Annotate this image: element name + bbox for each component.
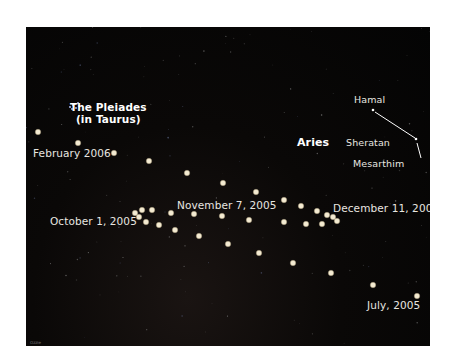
mars-position-core	[315, 209, 319, 213]
background-star	[333, 93, 334, 94]
label-november-2005: November 7, 2005	[177, 200, 277, 211]
background-star	[146, 329, 147, 330]
background-star	[76, 279, 78, 281]
background-star	[239, 161, 240, 162]
mars-position-core	[415, 294, 419, 298]
background-star	[182, 106, 183, 107]
background-star	[93, 74, 94, 75]
background-star	[151, 223, 152, 224]
background-star	[106, 195, 107, 196]
mars-position-core	[320, 222, 324, 226]
background-star	[416, 281, 418, 283]
mars-position-core	[137, 215, 141, 219]
background-star	[317, 153, 318, 154]
background-star	[326, 195, 327, 196]
background-star	[178, 74, 179, 75]
aries-star	[372, 109, 375, 112]
background-star	[88, 252, 89, 253]
mars-position-core	[282, 198, 286, 202]
background-star	[371, 187, 372, 188]
mars-position-core	[173, 228, 177, 232]
background-star	[120, 201, 121, 202]
background-star	[312, 273, 313, 274]
background-star	[349, 270, 350, 271]
label-july-2005: July, 2005	[367, 300, 420, 311]
background-star	[138, 137, 139, 138]
mars-position-core	[76, 141, 80, 145]
background-star	[126, 181, 127, 182]
background-star	[79, 64, 80, 65]
background-star	[223, 173, 224, 174]
background-star	[92, 27, 93, 28]
label-pleiades: The Pleiades (in Taurus)	[70, 101, 147, 125]
background-star	[284, 112, 285, 113]
background-star	[344, 343, 345, 344]
background-star	[84, 337, 85, 338]
background-star	[26, 127, 27, 128]
background-star	[96, 242, 97, 243]
background-star	[262, 237, 263, 238]
mars-position-core	[192, 212, 196, 216]
background-star	[196, 225, 197, 226]
background-star	[294, 320, 295, 321]
background-star	[312, 333, 313, 334]
background-star	[85, 132, 86, 133]
mars-position-core	[197, 234, 201, 238]
background-star	[343, 163, 344, 164]
background-star	[321, 114, 323, 116]
mars-position-core	[304, 222, 308, 226]
mars-position-core	[226, 242, 230, 246]
background-star	[368, 266, 369, 267]
background-star	[144, 66, 145, 67]
mars-position-core	[169, 211, 173, 215]
background-star	[28, 141, 29, 142]
label-february-2006: February 2006	[33, 148, 111, 159]
background-star	[127, 155, 128, 156]
background-star	[70, 179, 71, 180]
background-star	[144, 76, 145, 77]
background-star	[62, 42, 63, 43]
background-star	[163, 60, 164, 61]
background-star	[250, 34, 251, 35]
background-star	[203, 50, 205, 52]
background-star	[50, 263, 51, 264]
background-star	[268, 167, 269, 168]
background-star	[169, 236, 170, 237]
background-star	[181, 279, 182, 280]
background-star	[91, 57, 92, 58]
mars-position-core	[254, 190, 258, 194]
label-mesarthim: Mesarthim	[353, 159, 404, 169]
background-star	[168, 129, 169, 130]
background-star	[127, 276, 128, 277]
background-star	[421, 28, 422, 29]
background-star	[423, 111, 424, 112]
background-star	[385, 241, 386, 242]
constellation-line	[375, 112, 415, 138]
mars-position-core	[144, 220, 148, 224]
background-star	[181, 315, 182, 316]
background-star	[205, 332, 206, 333]
background-star	[230, 51, 231, 52]
background-star	[332, 235, 333, 236]
background-star	[233, 38, 234, 39]
background-star	[429, 31, 430, 32]
background-star	[65, 275, 67, 277]
background-star	[383, 177, 384, 178]
background-star	[272, 65, 273, 66]
mars-position-core	[331, 215, 335, 219]
mars-position-core	[282, 220, 286, 224]
background-star	[227, 315, 228, 316]
background-star	[165, 212, 166, 213]
background-star	[167, 137, 169, 139]
label-hamal: Hamal	[354, 95, 385, 105]
background-star	[61, 124, 62, 125]
background-star	[121, 241, 122, 242]
background-star	[61, 72, 62, 73]
mars-position-core	[220, 214, 224, 218]
background-star	[64, 69, 65, 70]
background-star	[192, 126, 193, 127]
mars-position-core	[247, 218, 251, 222]
mars-position-core	[335, 219, 339, 223]
label-aries: Aries	[297, 137, 329, 148]
background-star	[225, 36, 226, 37]
